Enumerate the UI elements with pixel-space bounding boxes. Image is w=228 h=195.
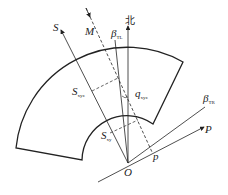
label-north: 北 xyxy=(125,16,135,26)
label-q-xyz: qxyz xyxy=(135,88,148,100)
label-p-upper: P xyxy=(205,124,212,135)
label-origin: O xyxy=(124,167,132,178)
label-beta-tr: βTR xyxy=(203,93,215,105)
beta-tl-line xyxy=(115,40,128,163)
beta-tr-line xyxy=(128,107,205,163)
annular-sector xyxy=(16,47,183,160)
label-s-xyz: Sxyz xyxy=(72,86,85,98)
label-m: M xyxy=(85,26,94,37)
label-p-lower: p xyxy=(153,151,159,162)
label-beta-tl: βTL xyxy=(111,28,123,40)
label-s: S xyxy=(53,22,59,33)
diagram: S M βTL 北 Sxyz qxyz Sxy βTR P p O xyxy=(0,0,228,195)
label-s-xy: Sxy xyxy=(101,130,112,142)
